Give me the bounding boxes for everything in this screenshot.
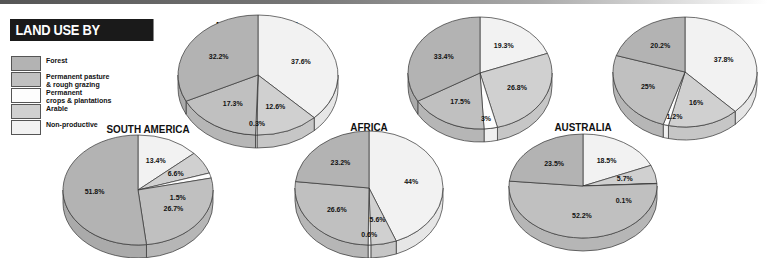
pie-label-crops: 1.5% [170, 194, 187, 201]
pie-label-nonprod: 44% [404, 178, 419, 185]
pie-label-pasture: 26.6% [327, 206, 348, 213]
pie-label-forest: 23.2% [330, 159, 351, 166]
pie-label-pasture: 52.2% [572, 212, 593, 219]
pie-label-pasture: 17.5% [450, 98, 471, 105]
pie-label-forest: 51.8% [85, 188, 106, 195]
pie-charts: 37.6%12.6%0.3%17.3%32.2%13.4%6.6%1.5%26.… [0, 0, 768, 258]
pie-label-pasture: 26.7% [164, 205, 185, 212]
pie-label-arable: 5.6% [370, 216, 387, 223]
pie-label-crops: 3% [481, 115, 492, 122]
pie-label-arable: 16% [689, 99, 704, 106]
pie-label-arable: 6.6% [168, 170, 185, 177]
pie-label-nonprod: 18.5% [597, 157, 618, 164]
pie-side-crops [368, 245, 371, 258]
pie-south-america: 13.4%6.6%1.5%26.7%51.8% [63, 135, 213, 258]
pie-europe: 19.3%26.8%3%17.5%33.4% [408, 17, 552, 142]
pie-africa: 44%5.6%0.6%26.6%23.2% [295, 131, 443, 258]
pie-label-forest: 33.4% [434, 53, 455, 60]
pie-label-nonprod: 37.6% [291, 58, 312, 65]
pie-label-arable: 5.7% [617, 175, 634, 182]
pie-australia: 18.5%5.7%0.1%52.2%23.5% [509, 134, 657, 251]
pie-side-crops [484, 127, 497, 142]
pie-label-crops: 1.2% [666, 113, 683, 120]
pie-label-nonprod: 19.3% [494, 42, 515, 49]
pie-slice-pasture [295, 182, 369, 245]
pie-label-nonprod: 13.4% [146, 157, 167, 164]
pie-label-crops: 0.6% [361, 231, 378, 238]
pie-side-crops [663, 124, 668, 138]
pie-label-forest: 23.5% [544, 160, 565, 167]
pie-label-arable: 12.6% [265, 103, 286, 110]
pie-label-forest: 20.2% [650, 42, 671, 49]
pie-label-pasture: 17.3% [223, 100, 244, 107]
pie-label-arable: 26.8% [507, 84, 528, 91]
pie-north-america: 37.6%12.6%0.3%17.3%32.2% [178, 15, 338, 148]
pie-label-crops: 0.1% [616, 197, 633, 204]
pie-label-crops: 0.3% [249, 120, 266, 127]
pie-label-pasture: 25% [641, 83, 656, 90]
pie-asia: 37.8%16%1.2%25%20.2% [613, 17, 757, 140]
pie-label-forest: 32.2% [209, 53, 230, 60]
pie-label-nonprod: 37.8% [714, 56, 735, 63]
